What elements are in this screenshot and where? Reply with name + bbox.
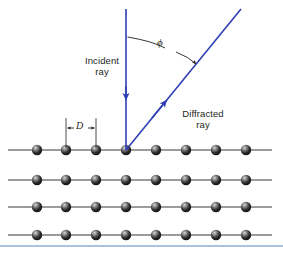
phi-angle-label: ϕ [157,36,163,48]
atom [241,202,251,212]
lattice-row [8,145,272,155]
atom [61,202,71,212]
lattice-rows [8,145,272,240]
figure-canvas [0,0,283,253]
atom [91,230,101,240]
lattice-row [8,175,272,185]
spacing-d-label: D [75,120,84,131]
atom [151,175,161,185]
atom [151,202,161,212]
atom [32,175,42,185]
atom [211,202,221,212]
atom [181,145,191,155]
atom [211,145,221,155]
atom [181,175,191,185]
atom [61,175,71,185]
atom [211,175,221,185]
incident-ray-label: Incident ray [76,55,128,77]
lattice-row [8,230,272,240]
atom [151,145,161,155]
angle-arc-segment-right [176,52,196,64]
diffraction-figure: Incident ray Diffracted ray ϕ D [0,0,283,253]
atom [121,175,131,185]
atom [241,145,251,155]
atom [181,202,191,212]
atom [32,145,42,155]
atom [32,202,42,212]
atom [91,202,101,212]
atom [91,175,101,185]
diffracted-ray-arrowhead [152,101,166,118]
atom [32,230,42,240]
atom [241,175,251,185]
diffracted-ray-label: Diffracted ray [168,108,238,130]
atom [241,230,251,240]
atom [181,230,191,240]
lattice-row [8,202,272,212]
atom [61,230,71,240]
atom [211,230,221,240]
atom [121,230,131,240]
atom [151,230,161,240]
atom [121,202,131,212]
